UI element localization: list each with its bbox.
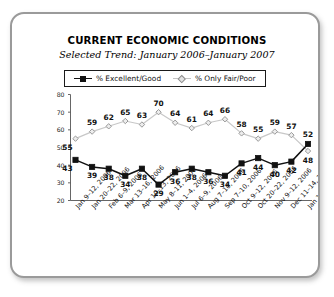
data-point-label: 58 <box>236 120 246 129</box>
data-point-label: 66 <box>220 106 230 115</box>
data-point-label: 55 <box>62 143 72 152</box>
data-point-label: 57 <box>286 122 296 131</box>
y-tick-label: 60 <box>49 126 65 133</box>
y-tick-label: 80 <box>49 91 65 98</box>
data-point-label: 64 <box>203 109 213 118</box>
data-point-label: 59 <box>270 118 280 127</box>
data-point-label: 62 <box>104 113 114 122</box>
y-tick-label: 20 <box>49 197 65 204</box>
data-point-label: 36 <box>203 177 213 186</box>
data-point-label: 61 <box>187 115 197 124</box>
data-point-label: 59 <box>87 118 97 127</box>
data-point-label: 40 <box>270 170 280 179</box>
data-point-label: 36 <box>170 177 180 186</box>
data-point-label: 41 <box>236 168 246 177</box>
data-point-label: 43 <box>62 164 72 173</box>
data-point-label: 38 <box>187 173 197 182</box>
y-tick-label: 30 <box>49 179 65 186</box>
data-point-label: 52 <box>303 130 313 139</box>
data-point-label: 65 <box>120 108 130 117</box>
data-point-label: 34 <box>120 180 130 189</box>
plot-area: 20304050607080 Jan 9–12, 2006Jan 20–22, … <box>12 14 320 278</box>
data-point-label: 55 <box>253 125 263 134</box>
data-point-label: 63 <box>137 111 147 120</box>
data-point-label: 34 <box>220 180 230 189</box>
data-point-label: 42 <box>286 166 296 175</box>
data-point-label: 38 <box>104 173 114 182</box>
data-point-label: 29 <box>153 189 163 198</box>
data-point-label: 44 <box>253 163 263 172</box>
chart-card: CURRENT ECONOMIC CONDITIONS Selected Tre… <box>10 12 320 278</box>
data-point-label: 64 <box>170 109 180 118</box>
data-point-label: 70 <box>153 99 163 108</box>
data-point-label: 39 <box>87 171 97 180</box>
data-point-label: 48 <box>303 156 313 165</box>
y-tick-label: 70 <box>49 109 65 116</box>
data-point-label: 38 <box>137 173 147 182</box>
